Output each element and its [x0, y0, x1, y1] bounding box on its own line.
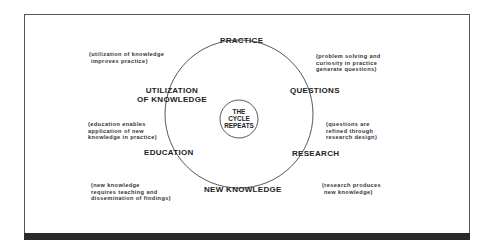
- utilization-line-2: OF KNOWLEDGE: [137, 95, 207, 104]
- stage-new-knowledge: NEW KNOWLEDGE: [204, 185, 282, 194]
- utilization-line-1: UTILIZATION: [137, 86, 207, 95]
- stage-questions: QUESTIONS: [290, 86, 340, 95]
- center-line-3: REPEATS: [219, 122, 259, 129]
- stage-utilization-of-knowledge: UTILIZATION OF KNOWLEDGE: [137, 86, 207, 104]
- note-utilization-to-practice: (utilization of knowledge improves pract…: [89, 51, 164, 64]
- stage-education: EDUCATION: [144, 148, 194, 157]
- note-knowledge-to-education: (new knowledge requires teaching and dis…: [91, 182, 171, 202]
- center-line-1: THE: [219, 108, 259, 115]
- note-questions-to-research: (questions are refined through research …: [326, 121, 377, 141]
- stage-research: RESEARCH: [292, 149, 339, 158]
- stage-practice: PRACTICE: [220, 36, 263, 45]
- center-line-2: CYCLE: [219, 115, 259, 122]
- note-education-to-utilization: (education enables application of new kn…: [88, 121, 157, 141]
- center-label: THE CYCLE REPEATS: [219, 108, 259, 129]
- note-practice-to-questions: (problem solving and curiosity in practi…: [316, 53, 381, 73]
- note-research-to-knowledge: (research produces new knowledge): [322, 182, 381, 195]
